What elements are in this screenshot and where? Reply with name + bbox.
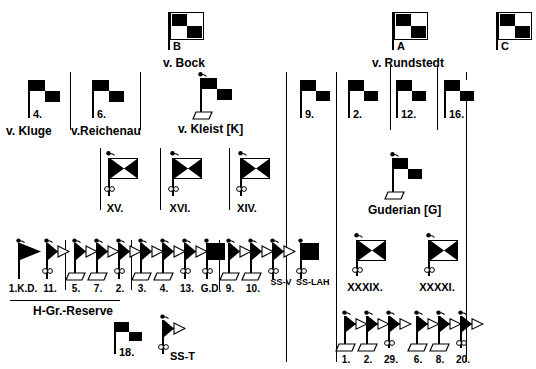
army-commander: v. Kluge	[6, 124, 52, 138]
division-designation: 1.	[342, 354, 350, 365]
corps-flag-icon	[110, 158, 138, 179]
division-designation: 1.K.D.	[9, 283, 37, 294]
pole-finial-icon	[426, 233, 436, 240]
divider-rule	[229, 148, 230, 210]
pennant-flag-icon	[274, 243, 296, 260]
division-designation: 7.	[94, 283, 102, 294]
pole-finial-icon	[170, 151, 180, 158]
pole-finial-icon	[106, 151, 116, 158]
divider-rule	[437, 66, 438, 130]
army-designation: 12.	[401, 108, 416, 120]
army-group-designation: A	[397, 40, 405, 52]
checkerboard-flag-icon	[94, 80, 124, 102]
corps-designation: XXXXI.	[419, 281, 454, 293]
pennant-flag-icon	[48, 243, 70, 260]
pennant-flag-icon	[252, 243, 274, 260]
corps-designation: XIV.	[237, 202, 257, 214]
panzer-track-icon	[241, 272, 262, 281]
division-designation: SS-V	[269, 277, 293, 287]
checkerboard-flag-icon	[350, 80, 378, 101]
pennant-flag-icon	[230, 243, 252, 260]
panzer-track-icon	[219, 272, 240, 281]
army-group-commander: v. Rundstedt	[372, 56, 444, 70]
motorized-icon	[236, 186, 247, 192]
divider-rule	[336, 72, 337, 362]
motorized-icon	[42, 268, 53, 274]
motorized-icon	[352, 267, 363, 273]
motorized-icon	[384, 340, 395, 346]
panzer-track-icon	[131, 272, 152, 281]
corps-flag-icon	[430, 240, 458, 261]
checkerboard-flag-icon	[30, 80, 60, 102]
checkerboard-flag-icon	[498, 12, 532, 40]
corps-designation: XVI.	[170, 202, 191, 214]
reserve-underline	[10, 300, 120, 301]
motorized-icon	[424, 267, 435, 273]
motorized-icon	[168, 186, 179, 192]
checkerboard-flag-icon	[398, 80, 426, 101]
motorized-icon	[296, 268, 307, 274]
pennant-flag-icon	[462, 316, 484, 332]
army-designation: 2.	[353, 108, 362, 120]
pennant-flag-icon	[368, 316, 390, 332]
army-designation: 6.	[97, 108, 106, 120]
pennant-flag-icon	[76, 243, 98, 260]
pennant-flag-icon	[186, 243, 208, 260]
division-designation: 20.	[456, 354, 470, 365]
pole-finial-icon	[238, 151, 248, 158]
division-designation: 8.	[436, 354, 444, 365]
corps-designation: XXXIX.	[347, 281, 382, 293]
corps-designation: XV.	[107, 202, 124, 214]
division-designation: SS-LAH	[296, 277, 322, 287]
motorized-icon	[114, 268, 125, 274]
motorized-icon	[202, 268, 213, 274]
panzer-track-icon	[65, 272, 86, 281]
division-designation: 2.	[364, 354, 372, 365]
pennant-flag-icon	[390, 316, 412, 332]
pennant-flag-icon	[142, 243, 164, 260]
divider-rule	[160, 148, 161, 210]
division-designation: 6.	[414, 354, 422, 365]
panzer-track-icon	[153, 272, 174, 281]
checkerboard-flag-icon	[116, 322, 142, 341]
army-designation: 4.	[33, 108, 42, 120]
checkerboard-flag-icon	[302, 80, 330, 101]
army-designation: 16.	[449, 108, 464, 120]
divider-rule	[70, 72, 71, 130]
army-group-designation: C	[501, 40, 509, 52]
motorized-icon	[456, 340, 467, 346]
panzer-track-icon	[407, 343, 428, 352]
corps-flag-icon	[358, 240, 386, 261]
panzer-track-icon	[192, 111, 213, 120]
solid-flag-icon	[302, 243, 319, 260]
panzer-group-commander: v. Kleist [K]	[178, 122, 243, 136]
army-group-designation: B	[173, 40, 181, 52]
checkerboard-flag-icon	[202, 78, 232, 100]
pennant-flag-icon	[440, 316, 462, 332]
checkerboard-flag-icon	[394, 158, 422, 179]
division-designation: 4.	[160, 283, 168, 294]
pennant-flag-icon	[418, 316, 440, 332]
division-designation: SS-T	[170, 350, 195, 362]
checkerboard-flag-icon	[394, 12, 428, 40]
army-commander: v.Reichenau	[71, 124, 141, 138]
army-group-commander: v. Bock	[163, 56, 205, 70]
division-designation: 9.	[226, 283, 234, 294]
division-designation: 2.	[116, 283, 124, 294]
division-designation: 13.	[180, 283, 194, 294]
motorized-icon	[268, 268, 279, 274]
regiment-designation: G.D.	[201, 283, 222, 294]
division-designation: 3.	[138, 283, 146, 294]
hgr-reserve-caption: H-Gr.-Reserve	[33, 304, 113, 318]
motorized-icon	[180, 268, 191, 274]
orbat-diagram: B v. Bock A v. Rundstedt C 4. v. Kluge 6…	[0, 0, 536, 369]
divider-rule	[286, 72, 287, 362]
division-designation: 10.	[246, 283, 260, 294]
checkerboard-flag-icon	[170, 12, 204, 40]
checkerboard-flag-icon	[446, 80, 474, 101]
division-designation: 29.	[384, 354, 398, 365]
corps-flag-icon	[174, 158, 202, 179]
panzer-track-icon	[335, 343, 356, 352]
pennant-flag-icon	[164, 243, 186, 260]
army-designation: 18.	[119, 346, 134, 358]
